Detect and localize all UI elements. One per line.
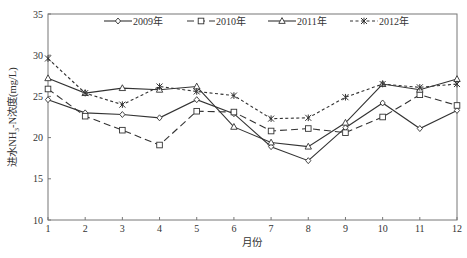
square-marker-icon — [380, 114, 386, 120]
plot-border — [48, 14, 457, 220]
plot-frame — [48, 14, 457, 220]
triangle-marker-icon — [119, 85, 125, 91]
square-marker-icon — [120, 127, 126, 133]
series-2011 — [45, 75, 460, 149]
line-chart: 101520253035 123456789101112 2009年2010年2… — [0, 0, 467, 258]
legend-item: 2010年 — [187, 15, 246, 27]
diamond-marker-icon — [194, 97, 199, 103]
x-tick-label: 7 — [269, 223, 274, 234]
asterisk-marker-icon — [45, 55, 51, 62]
x-tick-label: 5 — [194, 223, 199, 234]
diamond-marker-icon — [157, 115, 162, 121]
y-tick-label: 10 — [33, 215, 43, 226]
square-marker-icon — [231, 109, 237, 115]
diamond-legend-icon — [115, 18, 120, 24]
triangle-marker-icon — [45, 75, 51, 81]
asterisk-marker-icon — [119, 101, 125, 108]
y-tick-label: 25 — [33, 91, 43, 102]
square-marker-icon — [305, 126, 311, 132]
legend-label: 2012年 — [379, 15, 409, 27]
legend-item: 2011年 — [268, 15, 327, 27]
diamond-marker-icon — [120, 112, 125, 118]
x-tick-label: 2 — [83, 223, 88, 234]
x-tick-label: 4 — [157, 223, 162, 234]
legend-label: 2010年 — [216, 15, 246, 27]
square-marker-icon — [82, 113, 88, 119]
series-line — [48, 89, 457, 145]
y-axis-title: 进水NH3-N浓度(mg/L) — [6, 67, 21, 167]
square-marker-icon — [157, 142, 163, 148]
series-layer — [45, 55, 460, 163]
triangle-marker-icon — [194, 83, 200, 89]
y-axis-title-pre: 进水NH — [7, 131, 18, 167]
legend-label: 2009年 — [133, 15, 163, 27]
square-marker-icon — [194, 108, 200, 114]
x-tick-label: 10 — [378, 223, 388, 234]
square-marker-icon — [454, 103, 460, 109]
legend-item: 2012年 — [350, 15, 409, 27]
x-tick-label: 9 — [343, 223, 348, 234]
x-axis-title: 月份 — [242, 237, 263, 248]
series-2012 — [45, 55, 460, 122]
y-tick-label: 15 — [33, 173, 43, 184]
x-tick-label: 1 — [46, 223, 51, 234]
x-tick-label: 12 — [452, 223, 462, 234]
x-tick-label: 8 — [306, 223, 311, 234]
square-marker-icon — [343, 130, 349, 136]
svg-text:进水NH3-N浓度(mg/L): 进水NH3-N浓度(mg/L) — [6, 67, 21, 167]
x-tick-label: 11 — [415, 223, 425, 234]
asterisk-marker-icon — [342, 94, 348, 101]
triangle-marker-icon — [454, 76, 460, 82]
square-marker-icon — [45, 86, 51, 92]
diamond-marker-icon — [45, 97, 50, 103]
legend-item: 2009年 — [104, 15, 163, 27]
series-line — [48, 58, 457, 118]
square-legend-icon — [198, 18, 204, 24]
x-tick-label: 3 — [120, 223, 125, 234]
diamond-marker-icon — [380, 100, 385, 106]
asterisk-marker-icon — [305, 115, 311, 122]
asterisk-marker-icon — [268, 115, 274, 122]
square-marker-icon — [268, 128, 274, 134]
y-axis-title-post: -N浓度(mg/L) — [6, 67, 19, 128]
x-tick-label: 6 — [231, 223, 236, 234]
square-marker-icon — [417, 92, 423, 98]
legend-label: 2011年 — [297, 15, 327, 27]
y-tick-label: 30 — [33, 50, 43, 61]
legend: 2009年2010年2011年2012年 — [104, 15, 409, 27]
diamond-marker-icon — [417, 126, 422, 132]
y-tick-label: 20 — [33, 132, 43, 143]
series-2010 — [45, 86, 460, 148]
y-tick-label: 35 — [33, 9, 43, 20]
chart-canvas: 101520253035 123456789101112 2009年2010年2… — [0, 0, 467, 258]
